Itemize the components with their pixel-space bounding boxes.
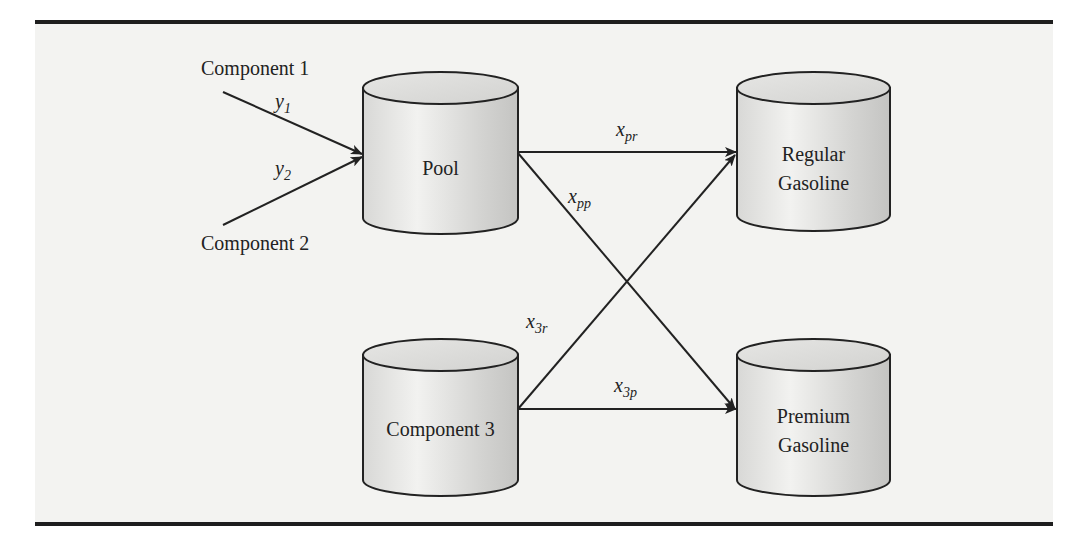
tank-label-premium-line1: Premium bbox=[777, 405, 851, 427]
tank-premium-gasoline: Premium Gasoline bbox=[737, 339, 890, 496]
pooling-network-diagram: Pool Component 3 Regular Gasoline Premiu… bbox=[0, 0, 1086, 542]
tank-label-premium-line2: Gasoline bbox=[778, 434, 849, 456]
tank-component-3: Component 3 bbox=[363, 339, 518, 496]
tank-label-component-3: Component 3 bbox=[386, 418, 494, 441]
flow-label-x3p: x3p bbox=[613, 374, 637, 400]
tank-label-pool: Pool bbox=[422, 157, 459, 179]
tank-regular-gasoline: Regular Gasoline bbox=[737, 72, 890, 231]
flow-arrow-y1 bbox=[223, 92, 362, 154]
tank-pool: Pool bbox=[363, 72, 518, 234]
source-label-component-2: Component 2 bbox=[201, 232, 309, 255]
flow-arrow-y2 bbox=[223, 157, 362, 225]
flow-label-x3r: x3r bbox=[525, 310, 548, 336]
flow-label-y2: y2 bbox=[273, 157, 291, 183]
flow-label-xpp: xpp bbox=[567, 185, 591, 211]
source-label-component-1: Component 1 bbox=[201, 57, 309, 80]
flow-label-y1: y1 bbox=[273, 90, 291, 116]
tank-label-regular-line2: Gasoline bbox=[778, 172, 849, 194]
flow-label-xpr: xpr bbox=[615, 118, 638, 144]
tank-label-regular-line1: Regular bbox=[782, 143, 846, 166]
